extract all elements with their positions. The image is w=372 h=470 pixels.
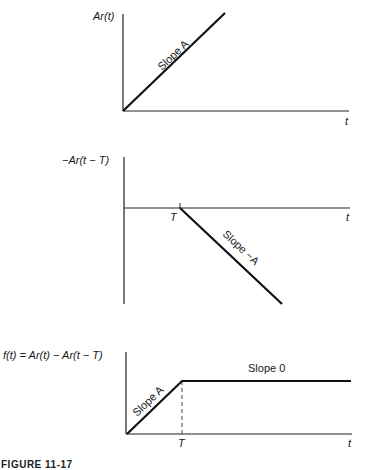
slope-a-label-1: Slope A: [155, 37, 191, 72]
x-axis-label-ramp: t: [345, 116, 348, 127]
panel-negative-delayed-ramp: [124, 157, 350, 304]
negative-ramp-line: [180, 208, 282, 304]
tick-label-T-3: T: [178, 438, 185, 449]
slope-zero-label: Slope 0: [248, 363, 285, 374]
x-axis-label-negative: t: [346, 212, 349, 223]
figure-caption: FIGURE 11-17: [1, 459, 73, 470]
tick-label-T-2: T: [170, 212, 177, 223]
y-axis-label-ramp: Ar(t): [93, 11, 114, 22]
y-axis-label-negative: −Ar(t − T): [62, 155, 109, 166]
y-axis-label-sum: f(t) = Ar(t) − Ar(t − T): [3, 350, 103, 361]
x-axis-label-sum: t: [348, 438, 351, 449]
slope-neg-a-label: Slope −A: [221, 228, 263, 268]
